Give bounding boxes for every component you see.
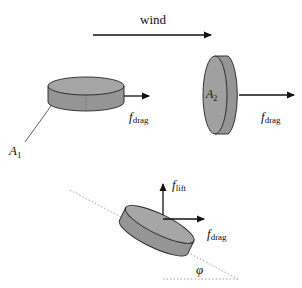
drag-label-2: fdrag xyxy=(261,109,281,125)
angle-phi-label: φ xyxy=(196,262,203,277)
wind-force-diagram: wind fdrag A1 A2 fdrag flift fdrag φ xyxy=(0,0,302,288)
lift-label: flift xyxy=(172,177,187,193)
area-leader-line xyxy=(25,106,51,142)
wind-label: wind xyxy=(140,12,167,27)
disk-top-face xyxy=(48,77,124,95)
drag-label-3: fdrag xyxy=(207,226,227,242)
disk-vertical: A2 fdrag xyxy=(203,56,294,134)
area-label-1: A1 xyxy=(8,143,21,160)
disk-horizontal: fdrag A1 xyxy=(8,77,149,160)
disk-tilted: flift fdrag φ xyxy=(70,177,238,279)
drag-label-1: fdrag xyxy=(129,109,149,125)
wind-indicator: wind xyxy=(93,12,211,35)
